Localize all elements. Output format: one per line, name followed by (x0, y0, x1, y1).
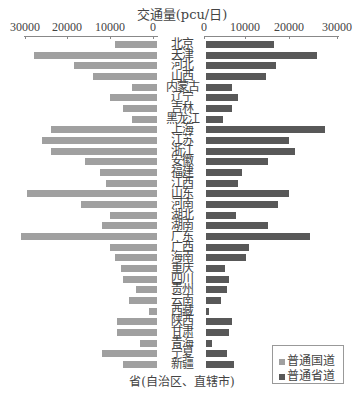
bar-national-road (51, 148, 157, 155)
bar-national-road (106, 180, 157, 187)
left-tick: 20000 (52, 20, 82, 35)
bar-national-road (42, 137, 157, 144)
left-tick: 10000 (95, 20, 125, 35)
bar-provincial-road (206, 190, 289, 197)
bar-national-road (115, 41, 158, 48)
bar-national-road (123, 276, 157, 283)
bar-national-road (121, 265, 157, 272)
bar-provincial-road (206, 73, 266, 80)
bar-provincial-road (206, 308, 209, 315)
bar-national-road (132, 84, 158, 91)
bar-provincial-road (206, 222, 268, 229)
bar-national-road (27, 190, 157, 197)
right-axis-line (204, 36, 339, 37)
bar-provincial-road (206, 244, 249, 251)
left-axis-line (24, 36, 158, 37)
bar-national-road (100, 169, 157, 176)
legend: 普通国道 普通省道 (272, 345, 344, 384)
bar-national-road (140, 340, 157, 347)
bar-provincial-road (206, 276, 229, 283)
tick-mark (245, 36, 246, 39)
bar-national-road (51, 126, 157, 133)
bar-provincial-road (206, 201, 278, 208)
bar-national-road (110, 244, 157, 251)
bar-national-road (117, 318, 157, 325)
legend-swatch-national (279, 359, 285, 365)
left-tick: 0 (150, 20, 156, 35)
bar-national-road (136, 286, 157, 293)
right-tick: 0 (201, 20, 207, 35)
left-tick: 30000 (10, 20, 40, 35)
bar-national-road (110, 94, 157, 101)
bar-national-road (102, 222, 157, 229)
bar-national-road (117, 329, 157, 336)
bar-national-road (102, 350, 157, 357)
legend-label: 普通省道 (287, 369, 335, 383)
bar-provincial-road (206, 265, 225, 272)
tick-mark (153, 36, 154, 39)
bar-provincial-road (206, 94, 238, 101)
bar-provincial-road (206, 286, 227, 293)
bar-provincial-road (206, 361, 234, 368)
right-tick: 20000 (274, 20, 304, 35)
bar-provincial-road (206, 52, 317, 59)
bar-national-road (123, 361, 157, 368)
bar-provincial-road (206, 41, 274, 48)
bar-national-road (93, 73, 157, 80)
bar-provincial-road (206, 137, 289, 144)
bar-provincial-road (206, 180, 238, 187)
bar-provincial-road (206, 350, 227, 357)
bar-national-road (85, 158, 157, 165)
province-label: 新疆 (158, 359, 206, 369)
bar-national-road (149, 308, 158, 315)
bar-provincial-road (206, 105, 232, 112)
bar-national-road (34, 52, 157, 59)
bar-provincial-road (206, 254, 246, 261)
bar-provincial-road (206, 116, 223, 123)
bar-provincial-road (206, 212, 236, 219)
bar-provincial-road (206, 84, 232, 91)
bar-national-road (123, 105, 157, 112)
bar-provincial-road (206, 297, 221, 304)
tick-mark (204, 36, 205, 39)
right-tick: 10000 (230, 20, 260, 35)
legend-swatch-provincial (279, 374, 285, 380)
bar-provincial-road (206, 340, 212, 347)
tick-mark (289, 36, 290, 39)
bar-provincial-road (206, 126, 325, 133)
bar-provincial-road (206, 169, 242, 176)
bar-national-road (81, 201, 158, 208)
bar-provincial-road (206, 158, 268, 165)
tick-mark (67, 36, 68, 39)
right-tick: 30000 (322, 20, 352, 35)
legend-item-provincial: 普通省道 (279, 366, 335, 383)
bar-national-road (110, 212, 157, 219)
bar-provincial-road (206, 148, 295, 155)
bar-provincial-road (206, 318, 232, 325)
bar-national-road (115, 254, 158, 261)
bar-provincial-road (206, 233, 310, 240)
tick-mark (337, 36, 338, 39)
tick-mark (110, 36, 111, 39)
bar-national-road (132, 116, 158, 123)
bar-provincial-road (206, 329, 229, 336)
bar-national-road (21, 233, 157, 240)
tick-mark (25, 36, 26, 39)
bar-national-road (74, 62, 157, 69)
bar-provincial-road (206, 62, 276, 69)
bar-national-road (129, 297, 157, 304)
